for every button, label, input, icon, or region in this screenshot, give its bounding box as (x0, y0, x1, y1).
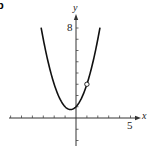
y-axis-label: y (73, 2, 77, 13)
y-axis-arrow (74, 14, 78, 20)
x-tick-label-5: 5 (127, 119, 133, 131)
x-axis-label: x (142, 110, 146, 121)
axes (9, 14, 141, 146)
x-axis-arrow (135, 116, 141, 120)
y-tick-label-8: 8 (67, 21, 73, 33)
parabola-curve (41, 28, 100, 110)
open-circle-point (85, 82, 89, 86)
ticks (11, 28, 131, 141)
